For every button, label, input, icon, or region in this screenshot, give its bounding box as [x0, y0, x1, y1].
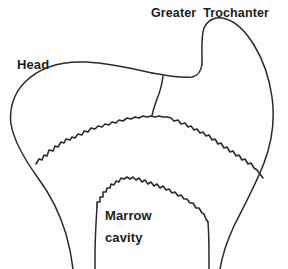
- neck-connector-path: [152, 76, 163, 116]
- greater-trochanter-path: [202, 18, 254, 64]
- femur-diagram: Greater Trochanter Head Marrowcavity: [0, 0, 288, 269]
- lateral-cortex-path: [220, 45, 273, 269]
- label-marrow-cavity: Marrowcavity: [105, 209, 152, 245]
- marrow-cavity-right-wall-path: [208, 222, 209, 269]
- femoral-neck-superior-path: [152, 64, 202, 77]
- label-greater-trochanter: Greater Trochanter: [151, 6, 269, 20]
- label-marrow-cavity-line1: Marrow: [105, 208, 152, 223]
- label-marrow-cavity-line2: cavity: [105, 231, 152, 245]
- marrow-cavity-left-wall-path: [95, 207, 97, 269]
- label-head: Head: [17, 58, 49, 72]
- trabecular-boundary-path: [36, 116, 263, 178]
